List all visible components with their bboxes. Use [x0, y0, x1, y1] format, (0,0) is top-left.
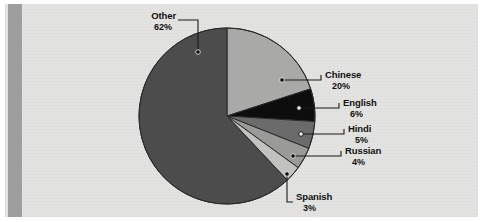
callout-hindi-percent: 5%	[355, 135, 368, 145]
callout-russian-marker-dot	[291, 154, 296, 159]
callout-english-marker-dot	[297, 106, 302, 111]
callout-other-marker-dot	[196, 50, 201, 55]
pie-chart-screenshot: Other 62% Chinese 20% English 6% Hindi 5…	[0, 0, 483, 222]
callout-other-label: Other	[151, 10, 176, 21]
callout-hindi-label: Hindi	[348, 123, 371, 134]
callout-spanish-label: Spanish	[296, 191, 333, 202]
callout-english-percent: 6%	[350, 109, 363, 119]
callout-russian-percent: 4%	[352, 157, 365, 167]
callout-chinese-marker-dot	[280, 78, 285, 83]
callout-spanish-percent: 3%	[303, 203, 316, 213]
callout-spanish-marker-dot	[285, 172, 290, 177]
callout-chinese-percent: 20%	[332, 81, 350, 91]
callout-chinese-label: Chinese	[325, 69, 361, 80]
callout-hindi-marker-dot	[299, 132, 304, 137]
pie-slices	[139, 28, 315, 204]
callout-russian-label: Russian	[345, 145, 382, 156]
language-share-pie-chart: Other 62% Chinese 20% English 6% Hindi 5…	[0, 0, 483, 222]
callout-spanish[interactable]: Spanish 3%	[285, 172, 333, 213]
callout-other-percent: 62%	[154, 22, 172, 32]
callout-english-label: English	[343, 97, 377, 108]
